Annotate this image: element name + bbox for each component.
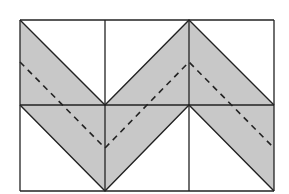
zigzag-diagram (0, 0, 289, 194)
